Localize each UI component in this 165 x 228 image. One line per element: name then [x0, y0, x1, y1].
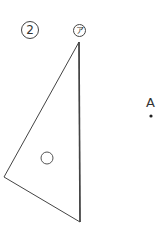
triangle — [4, 42, 80, 222]
point-a-dot — [149, 114, 152, 117]
small-circle-marker — [41, 152, 53, 164]
triangle-vertical-side — [79, 42, 80, 222]
geometry-figure — [0, 0, 165, 228]
